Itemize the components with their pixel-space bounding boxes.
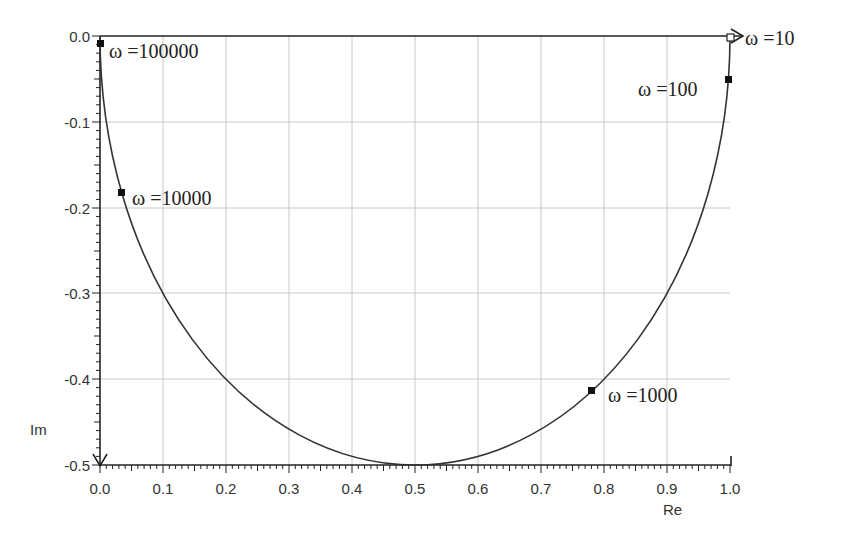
marker-w10 xyxy=(727,34,734,41)
label-w10: ω =10 xyxy=(745,27,794,49)
y-axis-title: Im xyxy=(30,421,47,438)
y-ticks xyxy=(92,36,100,465)
label-w10000: ω =10000 xyxy=(132,187,211,209)
marker-w100 xyxy=(725,76,732,83)
label-w1000: ω =1000 xyxy=(608,384,677,406)
x-tick-label: 0.4 xyxy=(342,480,363,497)
frequency-labels: ω =10 ω =100 ω =1000 ω =10000 ω =100000 xyxy=(109,27,794,406)
x-ticks xyxy=(100,465,730,473)
y-tick-label: -0.4 xyxy=(64,371,90,388)
marker-w1000 xyxy=(588,387,595,394)
label-w100000: ω =100000 xyxy=(109,40,198,62)
x-tick-label: 0.9 xyxy=(657,480,678,497)
nyquist-chart: 0.0 0.1 0.2 0.3 0.4 0.5 0.6 0.7 0.8 0.9 … xyxy=(0,0,846,552)
x-tick-label: 0.6 xyxy=(468,480,489,497)
x-tick-label: 0.0 xyxy=(90,480,111,497)
x-tick-labels: 0.0 0.1 0.2 0.3 0.4 0.5 0.6 0.7 0.8 0.9 … xyxy=(90,480,741,497)
y-tick-label: 0.0 xyxy=(69,28,90,45)
x-tick-label: 0.2 xyxy=(216,480,237,497)
x-tick-label: 0.8 xyxy=(594,480,615,497)
x-axis-title: Re xyxy=(663,501,682,518)
y-tick-label: -0.2 xyxy=(64,200,90,217)
y-tick-labels: 0.0 -0.1 -0.2 -0.3 -0.4 -0.5 xyxy=(64,28,90,474)
marker-w10000 xyxy=(118,189,125,196)
marker-w100000 xyxy=(97,40,104,47)
y-tick-label: -0.1 xyxy=(64,114,90,131)
x-tick-label: 0.7 xyxy=(531,480,552,497)
y-tick-label: -0.3 xyxy=(64,285,90,302)
x-tick-label: 0.1 xyxy=(153,480,174,497)
x-tick-label: 0.5 xyxy=(405,480,426,497)
label-w100: ω =100 xyxy=(638,78,697,100)
x-tick-label: 1.0 xyxy=(720,480,741,497)
y-tick-label: -0.5 xyxy=(64,457,90,474)
x-tick-label: 0.3 xyxy=(279,480,300,497)
